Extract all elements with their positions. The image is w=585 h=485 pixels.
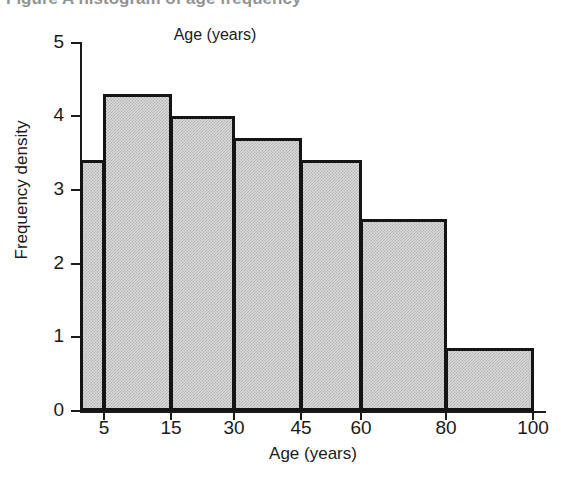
bars-layer (80, 42, 545, 411)
x-axis-title: Age (years) (80, 444, 546, 464)
y-tick-label-0: 0 (38, 400, 64, 419)
figure-root: Figure A histogram of age frequency Age … (0, 0, 585, 485)
y-axis-title: Frequency density (12, 40, 32, 340)
bar-80-100 (445, 348, 534, 411)
y-tick-2 (71, 263, 80, 265)
y-tick-4 (71, 115, 80, 117)
y-tick-5 (71, 42, 80, 44)
x-tick-label-100: 100 (503, 418, 563, 438)
y-tick-label-5: 5 (38, 32, 64, 51)
y-tick-label-1: 1 (38, 326, 64, 345)
x-tick-label-30: 30 (204, 418, 264, 438)
bar-45-60 (300, 160, 362, 411)
y-tick-3 (71, 189, 80, 191)
y-tick-1 (71, 336, 80, 338)
bar-0-5 (80, 160, 105, 411)
x-tick-label-80: 80 (416, 418, 476, 438)
x-tick-label-60: 60 (331, 418, 391, 438)
bar-5-15 (103, 94, 172, 411)
x-tick-label-5: 5 (74, 418, 134, 438)
x-axis-line (80, 411, 546, 413)
bar-30-45 (233, 138, 302, 411)
x-tick-label-15: 15 (141, 418, 201, 438)
bar-15-30 (170, 116, 235, 411)
x-tick-label-45: 45 (271, 418, 331, 438)
y-tick-0 (71, 410, 80, 412)
figure-caption-strip: Figure A histogram of age frequency (0, 0, 585, 14)
figure-caption: Figure A histogram of age frequency (6, 0, 301, 9)
y-tick-label-4: 4 (38, 105, 64, 124)
bar-60-80 (360, 219, 447, 411)
y-tick-label-3: 3 (38, 179, 64, 198)
y-tick-label-2: 2 (38, 253, 64, 272)
